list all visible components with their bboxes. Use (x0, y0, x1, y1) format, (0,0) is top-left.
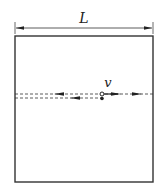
arrow-right-icon (144, 26, 152, 29)
diagram-canvas: L v (0, 0, 164, 191)
arrow-right-icon (111, 92, 121, 95)
filled-dot-particle (100, 97, 104, 101)
arrow-left-icon (70, 96, 80, 99)
width-label: L (78, 10, 88, 26)
arrow-left-icon (54, 92, 64, 95)
upper-dashed-path (15, 92, 153, 95)
container-box (15, 36, 153, 182)
lower-dashed-path (15, 96, 102, 99)
arrow-right-icon (132, 92, 142, 95)
width-dimension: L (15, 10, 153, 34)
arrow-left-icon (16, 26, 24, 29)
open-circle-particle (100, 92, 104, 96)
velocity-label: v (104, 75, 112, 90)
